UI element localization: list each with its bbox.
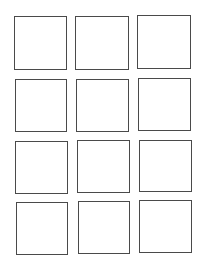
grid-box-r3-c1 xyxy=(15,141,68,194)
grid-box-r1-c2 xyxy=(75,16,129,70)
box-grid xyxy=(0,0,203,268)
grid-box-r2-c1 xyxy=(15,79,67,132)
grid-box-r3-c2 xyxy=(77,140,130,193)
grid-box-r4-c2 xyxy=(78,201,130,254)
grid-box-r2-c3 xyxy=(138,78,191,131)
grid-box-r3-c3 xyxy=(139,140,192,192)
grid-box-r4-c3 xyxy=(139,200,192,253)
grid-box-r1-c3 xyxy=(137,15,191,69)
grid-box-r4-c1 xyxy=(16,202,68,255)
grid-box-r2-c2 xyxy=(76,79,129,132)
grid-box-r1-c1 xyxy=(14,16,67,70)
